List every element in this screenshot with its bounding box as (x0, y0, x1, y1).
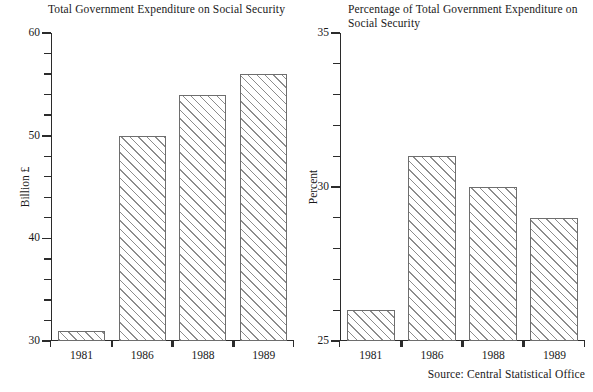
left-y-axis-line (51, 33, 52, 341)
y-axis-tick-label: 40 (29, 233, 41, 245)
y-axis-minor-tick (333, 310, 340, 311)
x-axis-tick-label: 1989 (543, 350, 566, 362)
figure-social-security-expenditure: Total Government Expenditure on Social S… (0, 0, 593, 392)
bar (179, 95, 226, 341)
x-axis-tick-label: 1986 (131, 350, 154, 362)
x-axis-tick-label: 1981 (70, 350, 93, 362)
x-axis-tick (522, 341, 523, 347)
x-axis-tick-label: 1981 (359, 350, 382, 362)
y-axis-minor-tick (333, 279, 340, 280)
bar (347, 310, 395, 341)
x-axis-tick (339, 341, 340, 347)
y-axis-minor-tick (44, 279, 51, 280)
y-axis-minor-tick (44, 299, 51, 300)
bar (119, 136, 166, 341)
x-axis-tick (232, 341, 233, 347)
x-axis-tick (171, 341, 172, 347)
left-y-axis-label: Billion £ (19, 167, 31, 208)
y-axis-minor-tick (333, 63, 340, 64)
y-axis-major-tick (331, 186, 340, 188)
bar (240, 74, 287, 341)
bar (58, 331, 105, 341)
y-axis-minor-tick (44, 73, 51, 74)
x-axis-tick-label: 1989 (252, 350, 275, 362)
y-axis-minor-tick (333, 248, 340, 249)
x-axis-tick (461, 341, 462, 347)
left-chart-plot-area: Billion £ 304050601981198619881989 (51, 33, 294, 341)
x-axis-tick (401, 341, 402, 347)
y-axis-minor-tick (44, 114, 51, 115)
y-axis-tick-label: 25 (318, 335, 330, 347)
x-axis-tick (50, 341, 51, 347)
x-axis-tick (524, 341, 525, 347)
y-axis-minor-tick (333, 156, 340, 157)
x-axis-tick (400, 341, 401, 347)
y-axis-tick-label: 30 (29, 335, 41, 347)
y-axis-minor-tick (44, 53, 51, 54)
y-axis-minor-tick (333, 125, 340, 126)
y-axis-minor-tick (44, 217, 51, 218)
y-axis-minor-tick (44, 94, 51, 95)
left-chart-title: Total Government Expenditure on Social S… (24, 2, 309, 16)
bar (530, 218, 578, 341)
y-axis-minor-tick (44, 156, 51, 157)
y-axis-tick-label: 35 (318, 27, 330, 39)
x-axis-tick (584, 341, 585, 347)
y-axis-tick-label: 60 (29, 27, 41, 39)
x-axis-tick (111, 341, 112, 347)
x-axis-tick-label: 1988 (482, 350, 505, 362)
y-axis-tick-label: 30 (318, 181, 330, 193)
x-axis-tick-label: 1986 (420, 350, 443, 362)
right-chart-title: Percentage of Total Government Expenditu… (348, 2, 592, 30)
right-y-axis-line (340, 33, 341, 341)
source-note: Source: Central Statistical Office (0, 368, 585, 380)
y-axis-tick-label: 50 (29, 130, 41, 142)
y-axis-minor-tick (44, 320, 51, 321)
x-axis-tick (293, 341, 294, 347)
y-axis-major-tick (331, 32, 340, 34)
y-axis-minor-tick (44, 176, 51, 177)
y-axis-minor-tick (333, 94, 340, 95)
y-axis-minor-tick (44, 258, 51, 259)
y-axis-minor-tick (44, 197, 51, 198)
y-axis-major-tick (42, 32, 51, 34)
x-axis-tick (463, 341, 464, 347)
y-axis-major-tick (42, 238, 51, 240)
y-axis-minor-tick (333, 217, 340, 218)
bar (469, 187, 517, 341)
bar (408, 156, 456, 341)
y-axis-major-tick (42, 135, 51, 137)
right-chart-plot-area: Percent 2530351981198619881989 (340, 33, 585, 341)
x-axis-tick-label: 1988 (191, 350, 214, 362)
